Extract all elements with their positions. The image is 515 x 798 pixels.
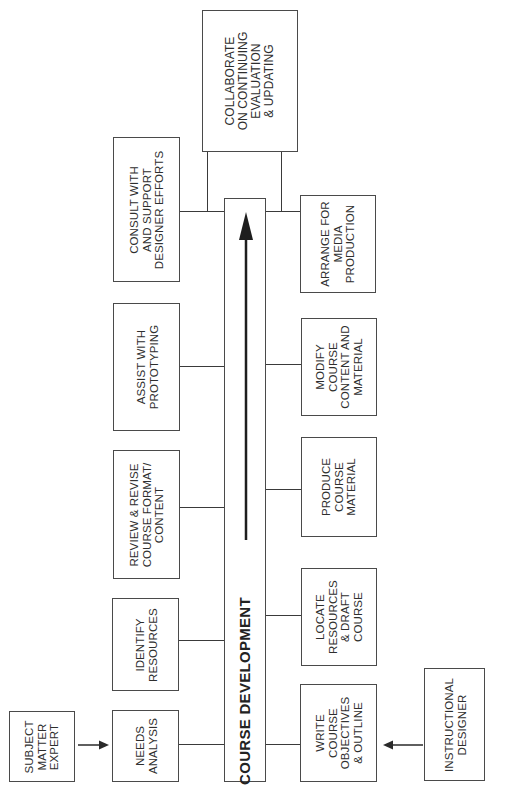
- task-locate-resources: LOCATE RESOURCES & DRAFT COURSE: [301, 568, 377, 666]
- connector-write-objectives: [265, 744, 301, 745]
- connector-modify-content: [265, 364, 301, 365]
- task-label: WRITE COURSE OBJECTIVES & OUTLINE: [314, 697, 364, 770]
- task-label: COLLABORATE ON CONTINUING EVALUATION & U…: [224, 32, 276, 131]
- task-produce-material: PRODUCE COURSE MATERIAL: [301, 437, 377, 537]
- actor-label: INSTRUCTIONAL DESIGNER: [442, 678, 467, 772]
- task-needs-analysis: NEEDS ANALYSIS: [112, 710, 179, 782]
- task-identify-resources: IDENTIFY RESOURCES: [112, 598, 179, 691]
- task-review-revise: REVIEW & REVISE COURSE FORMAT/ CONTENT: [113, 450, 180, 579]
- spine-label: COURSE DEVELOPMENT: [239, 597, 252, 785]
- task-label: REVIEW & REVISE COURSE FORMAT/ CONTENT: [128, 462, 166, 567]
- connector-collaborate-right: [281, 151, 282, 212]
- task-label: IDENTIFY RESOURCES: [133, 608, 158, 682]
- connector-arrange-media: [265, 211, 301, 212]
- connector-identify-resources: [179, 640, 225, 641]
- actor-instructional-designer: INSTRUCTIONAL DESIGNER: [424, 668, 485, 781]
- task-label: ASSIST WITH PROTOTYPING: [134, 325, 159, 410]
- connector-review-revise: [179, 507, 225, 508]
- connector-needs-analysis: [179, 744, 225, 745]
- connector-locate-resources: [265, 615, 301, 616]
- arrow-right-icon: [78, 741, 109, 750]
- task-label: MODIFY COURSE CONTENT AND MATERIAL: [314, 325, 364, 408]
- connector-collaborate-left: [207, 151, 208, 212]
- actor-subject-matter-expert: SUBJECT MATTER EXPERT: [9, 711, 75, 782]
- actor-label: SUBJECT MATTER EXPERT: [23, 720, 61, 773]
- task-label: CONSULT WITH AND SUPPORT DESIGNER EFFORT…: [128, 150, 166, 268]
- task-label: ARRANGE FOR MEDIA PRODUCTION: [319, 201, 357, 286]
- task-assist-prototyping: ASSIST WITH PROTOTYPING: [113, 303, 180, 431]
- connector-consult-support: [179, 211, 225, 212]
- task-arrange-media: ARRANGE FOR MEDIA PRODUCTION: [300, 195, 376, 293]
- task-modify-content: MODIFY COURSE CONTENT AND MATERIAL: [301, 318, 377, 416]
- connector-assist-prototyping: [179, 366, 225, 367]
- course-development-spine: COURSE DEVELOPMENT: [224, 198, 266, 782]
- task-consult-support: CONSULT WITH AND SUPPORT DESIGNER EFFORT…: [113, 137, 180, 282]
- arrow-left-icon: [383, 741, 423, 750]
- task-write-objectives: WRITE COURSE OBJECTIVES & OUTLINE: [300, 684, 377, 782]
- task-collaborate: COLLABORATE ON CONTINUING EVALUATION & U…: [202, 10, 298, 152]
- task-label: LOCATE RESOURCES & DRAFT COURSE: [314, 580, 364, 654]
- task-label: PRODUCE COURSE MATERIAL: [320, 458, 358, 516]
- connector-produce-material: [265, 489, 301, 490]
- task-label: NEEDS ANALYSIS: [133, 718, 158, 774]
